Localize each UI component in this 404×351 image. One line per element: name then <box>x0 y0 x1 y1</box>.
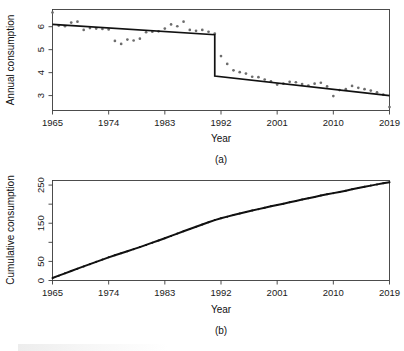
data-point <box>251 210 253 212</box>
data-point <box>82 29 85 32</box>
data-point <box>170 235 172 237</box>
data-point <box>120 252 122 254</box>
data-point <box>245 72 248 75</box>
page-edge-artifact <box>18 344 168 351</box>
panel-a-y-axis-label: Annual consumption <box>5 15 16 106</box>
data-point <box>276 204 278 206</box>
panel-b-x-ticks: 1965197419831992200120102019 <box>42 281 400 298</box>
x-tick-label: 2010 <box>323 117 344 128</box>
panel-a-plot-frame <box>53 10 390 111</box>
data-point <box>251 75 254 78</box>
x-tick-label: 1992 <box>210 117 231 128</box>
data-point <box>289 201 291 203</box>
data-point <box>95 261 97 263</box>
x-tick-label: 1983 <box>154 117 175 128</box>
panel-a-annual-consumption: 3456 1965197419831992200120102019 Annual… <box>0 0 404 175</box>
data-point <box>282 203 284 205</box>
data-point <box>320 195 322 197</box>
data-point <box>52 277 54 279</box>
data-point <box>101 259 103 261</box>
panel-b-y-axis-label: Cumulative consumption <box>5 175 16 285</box>
data-point <box>195 30 198 33</box>
data-point <box>326 85 329 88</box>
panel-a-data-points <box>51 11 391 108</box>
figure-container: 3456 1965197419831992200120102019 Annual… <box>0 0 404 351</box>
data-point <box>208 221 210 223</box>
data-point <box>70 21 73 24</box>
data-point <box>320 81 323 84</box>
data-point <box>164 237 166 239</box>
panel-b-cumulative-curve <box>53 182 390 278</box>
y-tick-label: 6 <box>35 24 46 29</box>
x-tick-label: 1965 <box>42 117 63 128</box>
x-tick-label: 2019 <box>379 117 400 128</box>
data-point <box>295 81 298 84</box>
panel-a-x-ticks: 1965197419831992200120102019 <box>42 111 400 128</box>
data-point <box>201 29 204 32</box>
panel-b-cumulative-consumption: 050150250 1965197419831992200120102019 C… <box>0 170 404 351</box>
data-point <box>58 275 60 277</box>
data-point <box>201 224 203 226</box>
data-point <box>239 213 241 215</box>
data-point <box>351 85 354 88</box>
y-tick-label: 250 <box>35 177 46 193</box>
data-point <box>301 199 303 201</box>
data-point <box>226 63 229 66</box>
data-point <box>89 263 91 265</box>
y-tick-label: 4 <box>35 70 46 75</box>
y-tick-label: 3 <box>35 93 46 98</box>
data-point <box>64 272 66 274</box>
panel-b-plot-frame <box>53 181 390 281</box>
data-point <box>295 200 297 202</box>
data-point <box>370 185 372 187</box>
x-tick-label: 1983 <box>154 287 175 298</box>
y-tick-label: 50 <box>35 256 46 267</box>
data-point <box>389 181 391 183</box>
data-point <box>245 211 247 213</box>
data-point <box>382 182 384 184</box>
panel-a-x-axis-label: Year <box>211 133 232 144</box>
data-point <box>207 30 210 33</box>
data-point <box>139 246 141 248</box>
data-point <box>388 106 391 109</box>
data-point <box>263 78 266 81</box>
data-point <box>314 196 316 198</box>
data-point <box>232 69 235 72</box>
y-tick-label: 150 <box>35 215 46 231</box>
data-point <box>83 265 85 267</box>
data-point <box>132 39 135 42</box>
data-point <box>126 38 129 41</box>
data-point <box>288 80 291 83</box>
data-point <box>257 208 259 210</box>
x-tick-label: 2010 <box>323 287 344 298</box>
panel-b-y-ticks: 050150250 <box>35 177 53 283</box>
data-point <box>270 205 272 207</box>
data-point <box>158 239 160 241</box>
data-point <box>188 29 191 32</box>
x-tick-label: 2019 <box>379 287 400 298</box>
data-point <box>176 25 179 28</box>
data-point <box>70 270 72 272</box>
data-point <box>214 219 216 221</box>
x-tick-label: 2001 <box>267 287 288 298</box>
data-point <box>133 248 135 250</box>
panel-a-y-ticks: 3456 <box>35 24 53 98</box>
data-point <box>351 188 353 190</box>
panel-a-fitted-step-line <box>53 24 390 95</box>
data-point <box>369 89 372 92</box>
data-point <box>345 190 347 192</box>
data-point <box>326 193 328 195</box>
data-point <box>332 192 334 194</box>
data-point <box>114 254 116 256</box>
panel-b-x-axis-label: Year <box>211 304 232 315</box>
x-tick-label: 1974 <box>98 287 119 298</box>
panel-b-svg: 050150250 1965197419831992200120102019 C… <box>0 170 404 351</box>
data-point <box>176 233 178 235</box>
data-point <box>151 242 153 244</box>
data-point <box>120 43 123 46</box>
data-point <box>232 214 234 216</box>
x-tick-label: 1965 <box>42 287 63 298</box>
y-tick-label: 5 <box>35 47 46 52</box>
data-point <box>363 88 366 91</box>
data-point <box>357 86 360 89</box>
